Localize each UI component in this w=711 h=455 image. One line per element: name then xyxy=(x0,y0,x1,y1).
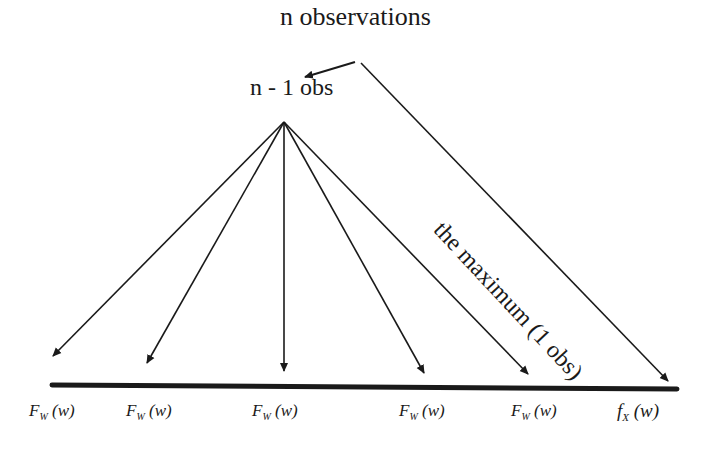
arrow-leaf-5 xyxy=(284,122,528,374)
root-label: n observations xyxy=(280,2,431,32)
arrow-leaf-1 xyxy=(53,122,284,356)
leaf-label-2: FW (w) xyxy=(126,401,172,422)
baseline-axis xyxy=(52,385,677,389)
leaf-label-1: FW (w) xyxy=(29,401,75,422)
leaf-label-3: FW (w) xyxy=(252,401,298,422)
diagram-canvas xyxy=(0,0,711,455)
leaf-label-5: FW (w) xyxy=(511,401,557,422)
arrow-root-to-max xyxy=(361,63,668,381)
arrow-leaf-2 xyxy=(147,122,284,363)
subset-label: n - 1 obs xyxy=(250,74,333,101)
leaf-label-max: fX (w) xyxy=(617,400,659,423)
arrow-leaf-4 xyxy=(284,122,424,373)
leaf-label-4: FW (w) xyxy=(399,401,445,422)
